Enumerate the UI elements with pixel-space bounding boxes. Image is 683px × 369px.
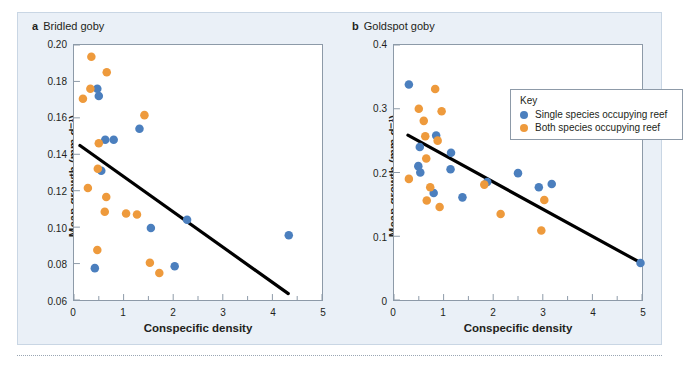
x-tick-label: 0 (70, 307, 76, 318)
data-point (547, 180, 556, 189)
data-point (537, 226, 546, 235)
data-point (102, 193, 111, 202)
data-point (514, 169, 523, 178)
data-point (421, 132, 430, 141)
panel-a-title-text: Bridled goby (43, 20, 104, 32)
data-point (155, 269, 164, 278)
panel-a-x-axis-title: Conspecific density (73, 322, 323, 334)
y-tick-label: 0.1 (353, 231, 387, 242)
y-tick-label: 0.14 (33, 149, 67, 160)
data-point (431, 85, 440, 94)
legend-title: Key (520, 95, 673, 106)
data-point (416, 168, 425, 177)
legend-item-both-species: Both species occupying reef (520, 122, 673, 133)
data-point (496, 210, 505, 219)
y-tick-label: 0.18 (33, 75, 67, 86)
x-tick-label: 4 (270, 307, 276, 318)
data-point (446, 165, 455, 174)
data-point (94, 165, 103, 174)
x-tick-label: 5 (320, 307, 326, 318)
bottom-divider (17, 355, 662, 356)
x-tick-label: 3 (220, 307, 226, 318)
data-point (95, 92, 104, 101)
data-point (135, 125, 144, 134)
data-point (86, 84, 95, 93)
legend-swatch-both-species-icon (520, 124, 528, 132)
y-tick-label: 0.20 (33, 39, 67, 50)
panel-b-plot-svg (394, 45, 642, 300)
y-tick-label: 0.2 (353, 167, 387, 178)
y-tick-label: 0.16 (33, 112, 67, 123)
data-point (285, 231, 294, 240)
data-point (91, 264, 100, 273)
panel-b-letter: b (352, 20, 359, 32)
data-point (183, 216, 192, 225)
y-tick-label: 0.06 (33, 296, 67, 307)
data-point (458, 193, 467, 202)
data-point (480, 180, 489, 189)
panel-a-plot-area (73, 44, 323, 301)
data-point (426, 183, 435, 192)
data-point (419, 117, 428, 126)
y-tick-label: 0.08 (33, 259, 67, 270)
data-point (447, 148, 456, 157)
y-tick-label: 0.10 (33, 222, 67, 233)
data-point (415, 104, 424, 113)
trendline (408, 135, 641, 262)
data-point (435, 203, 444, 212)
panel-b-plot-area: Key Single species occupying reef Both s… (393, 44, 643, 301)
legend-item-single-species: Single species occupying reef (520, 109, 673, 120)
data-point (93, 246, 102, 255)
data-point (95, 139, 104, 148)
data-point (109, 135, 118, 144)
data-series-single-species (91, 84, 293, 272)
y-tick-label: 0.12 (33, 185, 67, 196)
data-point (170, 262, 179, 271)
x-tick-label: 2 (170, 307, 176, 318)
x-tick-label: 5 (640, 307, 646, 318)
data-point (133, 210, 142, 219)
data-point (100, 207, 109, 216)
x-tick-label: 1 (120, 307, 126, 318)
panel-b-title: bGoldspot goby (352, 20, 435, 32)
data-point (147, 224, 156, 233)
data-point (416, 143, 425, 152)
data-point (405, 175, 414, 184)
data-point (433, 136, 442, 145)
panel-a-title: aBridled goby (32, 20, 104, 32)
panel-a-letter: a (32, 20, 38, 32)
axis-ticks (74, 45, 322, 300)
data-point (102, 68, 111, 77)
legend-label-both-species: Both species occupying reef (535, 122, 660, 133)
data-point (122, 209, 131, 218)
x-tick-label: 2 (490, 307, 496, 318)
x-tick-label: 4 (590, 307, 596, 318)
legend: Key Single species occupying reef Both s… (510, 89, 683, 140)
data-point (146, 258, 155, 267)
panel-b-title-text: Goldspot goby (364, 20, 435, 32)
y-tick-label: 0 (353, 296, 387, 307)
panel-b-x-axis-title: Conspecific density (393, 322, 643, 334)
y-tick-label: 0.4 (353, 39, 387, 50)
data-point (79, 94, 88, 103)
data-point (636, 259, 645, 268)
data-series-both-species (79, 53, 164, 278)
x-tick-label: 1 (440, 307, 446, 318)
x-tick-label: 3 (540, 307, 546, 318)
data-point (540, 196, 549, 205)
data-point (422, 154, 431, 163)
y-tick-label: 0.3 (353, 103, 387, 114)
data-point (535, 183, 544, 192)
legend-swatch-single-species-icon (520, 111, 528, 119)
data-point (84, 184, 93, 193)
data-point (140, 111, 149, 120)
panel-a-plot-svg (74, 45, 322, 300)
data-point (422, 196, 431, 205)
x-tick-label: 0 (390, 307, 396, 318)
legend-label-single-species: Single species occupying reef (535, 109, 667, 120)
panel-bridled-goby: aBridled goby Mean growth (mm d⁻¹) Consp… (20, 12, 350, 342)
panel-goldspot-goby: bGoldspot goby Mean growth (mm d⁻¹) Cons… (340, 12, 670, 342)
data-point (437, 107, 446, 116)
data-point (87, 53, 96, 62)
